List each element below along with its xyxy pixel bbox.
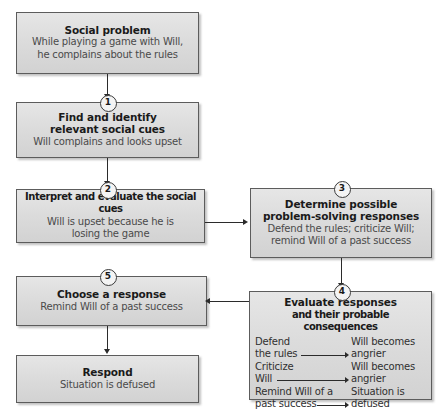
response-consequence-matrix: Defend Will becomes the rules angrier Cr…: [255, 336, 426, 412]
matrix-link-line-3: [317, 405, 347, 406]
node-respond-title-1: Respond: [22, 366, 193, 379]
connector-step1-to-step2: [107, 158, 108, 182]
matrix-row: Defend Will becomes: [255, 336, 426, 349]
node-determine-responses-sub-1: Defend the rules; criticize Will;: [256, 223, 426, 236]
step-number-4: 4: [334, 284, 351, 301]
node-interpret-evaluate-cues-sub-2: losing the game: [22, 228, 199, 241]
node-respond: Respond Situation is defused: [16, 355, 199, 403]
step-number-1: 1: [100, 95, 117, 112]
connector-step3-to-step4: [341, 258, 342, 284]
arrowhead-step2-to-step3: [243, 219, 248, 225]
matrix-right-3a: Situation is: [351, 386, 426, 399]
arrowhead-step5-to-respond: [104, 349, 110, 354]
matrix-right-3b: defused: [351, 398, 426, 411]
node-find-identify-cues-title-2: relevant social cues: [22, 123, 193, 136]
arrowhead-step4-to-step5: [205, 298, 210, 304]
node-determine-responses-title-1: Determine possible: [256, 198, 426, 211]
flowchart-canvas: Social problem While playing a game with…: [0, 0, 447, 420]
node-social-problem-sub-1: While playing a game with Will,: [22, 36, 193, 49]
matrix-left-1a: Defend: [255, 336, 351, 349]
step-number-5: 5: [100, 269, 117, 286]
matrix-left-2a: Criticize: [255, 361, 351, 374]
step-number-2: 2: [100, 182, 117, 199]
matrix-right-2b: angrier: [351, 373, 426, 386]
matrix-row: Will angrier: [255, 373, 426, 386]
connector-step4-to-step5: [207, 301, 249, 302]
matrix-link-line-2: [277, 380, 347, 381]
matrix-right-1b: angrier: [351, 348, 426, 361]
matrix-right-2a: Will becomes: [351, 361, 426, 374]
node-evaluate-responses: Evaluate responses and their probable co…: [249, 291, 432, 400]
node-respond-sub-1: Situation is defused: [22, 379, 193, 392]
matrix-link-arrow-2: [345, 377, 349, 383]
matrix-right-1a: Will becomes: [351, 336, 426, 349]
node-evaluate-responses-title-2: and their probable consequences: [255, 309, 426, 334]
node-determine-responses-title-2: problem-solving responses: [256, 210, 426, 223]
matrix-row: Criticize Will becomes: [255, 361, 426, 374]
matrix-link-line-1: [301, 355, 347, 356]
node-choose-response-sub-1: Remind Will of a past success: [22, 301, 201, 314]
connector-problem-to-step1: [107, 74, 108, 96]
node-social-problem-sub-2: he complains about the rules: [22, 49, 193, 62]
connector-step2-to-step3: [205, 222, 245, 223]
node-determine-responses-sub-2: remind Will of a past success: [256, 235, 426, 248]
matrix-row: the rules angrier: [255, 348, 426, 361]
matrix-link-arrow-1: [345, 352, 349, 358]
node-social-problem-title: Social problem: [22, 24, 193, 37]
step-number-3: 3: [334, 181, 351, 198]
matrix-row: Remind Will of a Situation is: [255, 386, 426, 399]
node-determine-responses: Determine possible problem-solving respo…: [250, 188, 432, 258]
node-find-identify-cues-title-1: Find and identify: [22, 111, 193, 124]
matrix-link-arrow-3: [345, 402, 349, 408]
node-interpret-evaluate-cues-sub-1: Will is upset because he is: [22, 216, 199, 229]
node-choose-response-title-1: Choose a response: [22, 288, 201, 301]
node-find-identify-cues-sub-1: Will complains and looks upset: [22, 136, 193, 149]
matrix-row: past success defused: [255, 398, 426, 411]
matrix-left-3a: Remind Will of a: [255, 386, 351, 399]
node-social-problem: Social problem While playing a game with…: [16, 12, 199, 74]
connector-step5-to-respond: [107, 326, 108, 350]
